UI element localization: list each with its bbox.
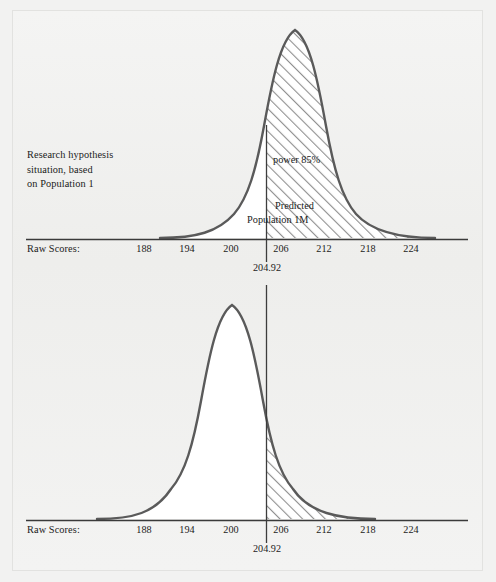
research-tick-212: 212 — [316, 243, 331, 254]
research-caption: Research hypothesis situation, based on … — [27, 148, 113, 192]
null-tick-206: 206 — [273, 524, 288, 535]
null-tick-212: 212 — [316, 524, 331, 535]
research-tick-194: 194 — [179, 243, 194, 254]
null-cutoff-label: 204.92 — [253, 543, 281, 554]
panel-null-hypothesis: Null hypothesis situation (comparison di… — [0, 285, 496, 582]
null-tick-194: 194 — [179, 524, 194, 535]
research-tick-188: 188 — [136, 243, 151, 254]
null-axis-title: Raw Scores: — [27, 524, 80, 535]
research-tick-224: 224 — [403, 243, 418, 254]
predicted-annotation-line-2: Population 1M — [247, 213, 314, 227]
power-annotation-label: power 85% — [273, 154, 320, 165]
null-tick-224: 224 — [403, 524, 418, 535]
null-tick-200: 200 — [223, 524, 238, 535]
panel-research-hypothesis: Research hypothesis situation, based on … — [0, 0, 496, 291]
research-tick-206: 206 — [273, 243, 288, 254]
null-tick-218: 218 — [360, 524, 375, 535]
predicted-population-annotation: Predicted Population 1M — [275, 199, 314, 228]
predicted-annotation-line-1: Predicted — [275, 200, 314, 211]
null-tick-188: 188 — [136, 524, 151, 535]
research-tick-218: 218 — [360, 243, 375, 254]
research-axis-title: Raw Scores: — [27, 243, 80, 254]
null-panel-plot — [0, 285, 496, 582]
unshaded-region-null — [97, 305, 375, 519]
research-caption-line-2: situation, based — [27, 164, 93, 175]
research-cutoff-label: 204.92 — [253, 262, 281, 273]
statistics-figure: Research hypothesis situation, based on … — [0, 0, 496, 582]
research-caption-line-3: on Population 1 — [27, 178, 94, 189]
research-tick-200: 200 — [223, 243, 238, 254]
power-annotation: power 85% — [273, 153, 320, 167]
research-caption-line-1: Research hypothesis — [27, 149, 113, 160]
